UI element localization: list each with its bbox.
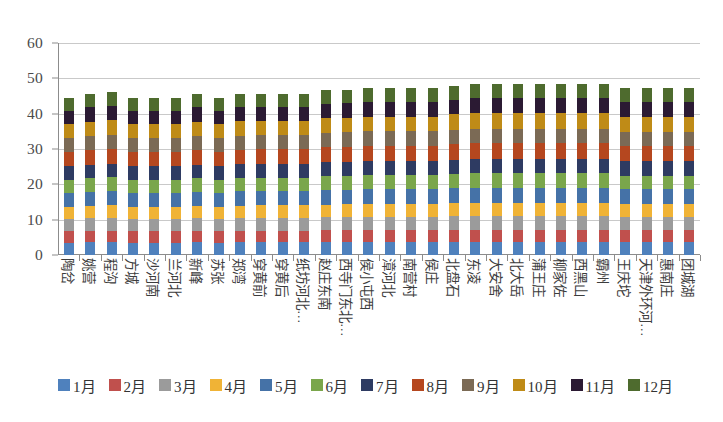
bar-segment[interactable] (620, 189, 630, 204)
bar-segment[interactable] (107, 149, 117, 164)
bar-segment[interactable] (684, 204, 694, 217)
bar-segment[interactable] (428, 175, 438, 189)
bar-segment[interactable] (385, 102, 395, 117)
bar-segment[interactable] (214, 111, 224, 125)
bar-segment[interactable] (470, 173, 480, 187)
bar-segment[interactable] (149, 243, 159, 255)
bar-segment[interactable] (128, 180, 138, 193)
bar-segment[interactable] (256, 178, 266, 191)
bar-segment[interactable] (342, 147, 352, 162)
bar-segment[interactable] (556, 203, 566, 216)
bar-segment[interactable] (342, 204, 352, 217)
bar-segment[interactable] (470, 113, 480, 128)
bar-segment[interactable] (599, 173, 609, 187)
bar-segment[interactable] (577, 129, 587, 144)
bar-segment[interactable] (278, 135, 288, 149)
bar-segment[interactable] (535, 188, 545, 203)
bar-segment[interactable] (599, 84, 609, 98)
bar-segment[interactable] (149, 111, 159, 125)
bar-segment[interactable] (406, 242, 416, 255)
bar-segment[interactable] (492, 188, 502, 203)
bar-segment[interactable] (192, 178, 202, 191)
bar-segment[interactable] (85, 136, 95, 150)
bar-stack[interactable] (513, 84, 523, 255)
bar-segment[interactable] (620, 230, 630, 242)
bar-segment[interactable] (256, 242, 266, 255)
bar-segment[interactable] (299, 94, 309, 107)
bar-segment[interactable] (128, 207, 138, 219)
bar-segment[interactable] (428, 131, 438, 145)
bar-segment[interactable] (85, 122, 95, 136)
bar-segment[interactable] (214, 124, 224, 138)
bar-segment[interactable] (321, 118, 331, 133)
bar-segment[interactable] (278, 107, 288, 121)
bar-segment[interactable] (235, 191, 245, 205)
legend-item[interactable]: 4月 (210, 375, 248, 396)
bar-segment[interactable] (235, 107, 245, 121)
bar-segment[interactable] (214, 193, 224, 207)
bar-segment[interactable] (663, 102, 673, 117)
bar-segment[interactable] (577, 143, 587, 159)
bar-segment[interactable] (428, 204, 438, 217)
bar-segment[interactable] (278, 205, 288, 217)
bar-segment[interactable] (406, 131, 416, 145)
bar-segment[interactable] (663, 242, 673, 255)
bar-segment[interactable] (235, 242, 245, 255)
bar-segment[interactable] (470, 98, 480, 113)
bar-segment[interactable] (406, 189, 416, 204)
bar-segment[interactable] (556, 143, 566, 159)
bar-stack[interactable] (684, 88, 694, 255)
bar-segment[interactable] (577, 230, 587, 242)
bar-segment[interactable] (235, 218, 245, 231)
bar-segment[interactable] (363, 161, 373, 175)
bar-segment[interactable] (214, 98, 224, 111)
bar-segment[interactable] (599, 203, 609, 216)
bar-segment[interactable] (642, 242, 652, 255)
bar-segment[interactable] (556, 216, 566, 230)
bar-segment[interactable] (428, 189, 438, 204)
bar-segment[interactable] (214, 207, 224, 219)
bar-segment[interactable] (535, 242, 545, 255)
bar-segment[interactable] (599, 113, 609, 128)
bar-segment[interactable] (171, 98, 181, 111)
legend-item[interactable]: 2月 (109, 375, 147, 396)
bar-segment[interactable] (171, 124, 181, 138)
bar-segment[interactable] (577, 159, 587, 173)
bar-segment[interactable] (684, 102, 694, 117)
bar-segment[interactable] (363, 204, 373, 217)
bar-segment[interactable] (556, 173, 566, 187)
bar-stack[interactable] (428, 88, 438, 255)
bar-segment[interactable] (85, 206, 95, 218)
bar-segment[interactable] (107, 106, 117, 120)
bar-segment[interactable] (256, 231, 266, 243)
bar-stack[interactable] (470, 84, 480, 255)
bar-segment[interactable] (406, 146, 416, 161)
bar-segment[interactable] (428, 161, 438, 175)
bar-segment[interactable] (577, 173, 587, 187)
bar-segment[interactable] (406, 117, 416, 132)
bar-segment[interactable] (556, 242, 566, 255)
bar-segment[interactable] (342, 90, 352, 103)
bar-segment[interactable] (385, 161, 395, 175)
bar-segment[interactable] (535, 230, 545, 242)
bar-segment[interactable] (299, 205, 309, 217)
bar-segment[interactable] (85, 165, 95, 179)
bar-segment[interactable] (620, 204, 630, 217)
bar-segment[interactable] (684, 230, 694, 242)
bar-segment[interactable] (299, 107, 309, 121)
bar-segment[interactable] (214, 219, 224, 232)
bar-segment[interactable] (642, 204, 652, 217)
bar-segment[interactable] (171, 219, 181, 232)
bar-segment[interactable] (599, 230, 609, 242)
bar-segment[interactable] (513, 203, 523, 216)
bar-stack[interactable] (256, 94, 266, 255)
bar-segment[interactable] (214, 166, 224, 179)
bar-segment[interactable] (535, 173, 545, 187)
bar-segment[interactable] (535, 203, 545, 216)
bar-segment[interactable] (470, 203, 480, 216)
bar-segment[interactable] (342, 176, 352, 190)
bar-segment[interactable] (128, 111, 138, 125)
bar-segment[interactable] (449, 144, 459, 159)
bar-segment[interactable] (256, 205, 266, 217)
bar-segment[interactable] (235, 178, 245, 191)
